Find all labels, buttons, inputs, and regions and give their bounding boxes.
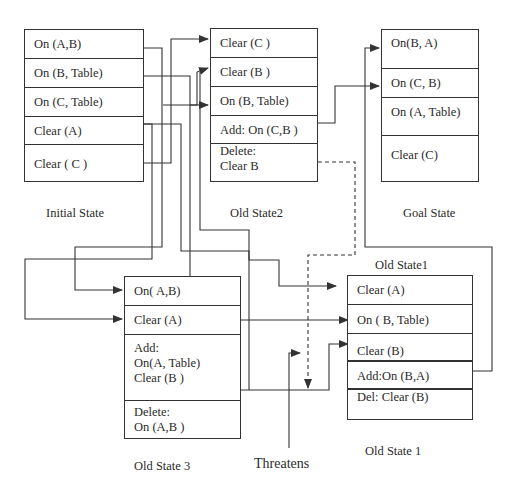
- old-state2-row: Clear (C ): [211, 29, 317, 58]
- old-state2-row: Clear (B ): [211, 57, 317, 87]
- initial-state-caption: Initial State: [46, 206, 104, 221]
- goal-state-row: On (A, Table): [382, 97, 478, 136]
- old-state1-row: Add:On (B,A): [348, 360, 472, 389]
- old-state3-row: On( A,B): [125, 277, 240, 306]
- goal-state-box: On(B, A) On (C, B) On (A, Table) Clear (…: [381, 29, 479, 182]
- old-state3-row: Delete: On (A,B ): [125, 400, 240, 439]
- old-state3-caption: Old State 3: [134, 459, 190, 474]
- initial-state-row: Clear (A): [25, 116, 143, 145]
- old-state3-box: On( A,B) Clear (A) Add: On(A, Table) Cle…: [124, 276, 241, 439]
- initial-state-box: On (A,B) On (B, Table) On (C, Table) Cle…: [24, 29, 144, 182]
- goal-state-row: On (C, B): [382, 68, 478, 98]
- old-state1-caption-top: Old State1: [375, 258, 428, 273]
- goal-state-row: On(B, A): [382, 30, 478, 69]
- goal-state-row: Clear (C): [382, 135, 478, 182]
- old-state2-caption: Old State2: [230, 206, 283, 221]
- old-state3-row: Clear (A): [125, 305, 240, 335]
- initial-state-row: On (C, Table): [25, 87, 143, 117]
- old-state1-row: Clear (A): [348, 276, 472, 305]
- initial-state-row: Clear ( C ): [25, 144, 143, 182]
- threatens-label: Threatens: [254, 456, 309, 472]
- old-state2-row: On (B, Table): [211, 86, 317, 116]
- initial-state-row: On (B, Table): [25, 58, 143, 88]
- old-state2-box: Clear (C ) Clear (B ) On (B, Table) Add:…: [210, 28, 318, 182]
- initial-state-row: On (A,B): [25, 30, 143, 59]
- old-state1-row: On ( B, Table): [348, 304, 472, 334]
- old-state3-row: Add: On(A, Table) Clear (B ): [125, 334, 240, 401]
- old-state1-box: Clear (A) On ( B, Table) Clear (B) Add:O…: [347, 275, 473, 420]
- old-state2-row: Add: On (C,B ): [211, 115, 317, 144]
- goal-state-caption: Goal State: [403, 206, 455, 221]
- old-state1-row: Clear (B): [348, 333, 472, 361]
- old-state1-caption-bottom: Old State 1: [365, 444, 421, 459]
- old-state1-row: Del: Clear (B): [348, 388, 472, 420]
- old-state2-row: Delete: Clear B: [211, 143, 317, 182]
